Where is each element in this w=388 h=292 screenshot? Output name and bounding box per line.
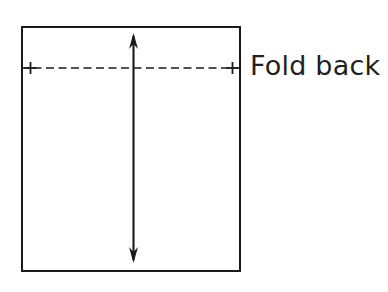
plus-marker-left	[25, 62, 37, 74]
diagram-canvas: Fold back	[0, 0, 388, 292]
fold-back-diagram	[0, 0, 388, 292]
plus-marker-right	[227, 62, 239, 74]
fold-back-label: Fold back	[250, 50, 380, 82]
fabric-panel-rectangle	[22, 27, 240, 271]
